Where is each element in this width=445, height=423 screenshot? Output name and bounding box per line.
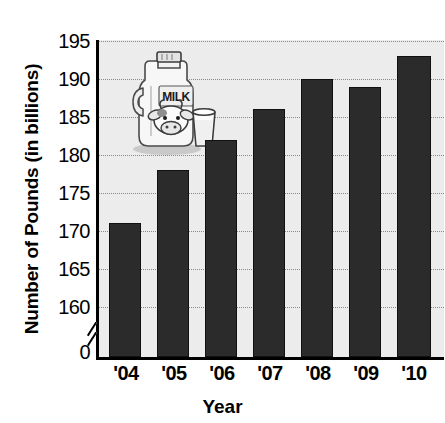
x-axis-line: [96, 357, 444, 360]
plot-inner: MILK: [99, 40, 444, 357]
bar-2004: [109, 223, 141, 357]
bar-2008: [301, 79, 333, 357]
bar-2006: [205, 140, 237, 357]
bar-2009: [349, 87, 381, 357]
svg-text:MILK: MILK: [162, 90, 190, 104]
y-tick-165: 165: [32, 259, 90, 279]
y-tick-175: 175: [32, 183, 90, 203]
bar-2005: [157, 170, 189, 357]
bar-chart: Number of Pounds (in billions) 195 190 1…: [0, 0, 445, 423]
bar-2007: [253, 109, 285, 357]
y-tick-170: 170: [32, 221, 90, 241]
y-tick-195: 195: [32, 31, 90, 51]
y-tick-180: 180: [32, 145, 90, 165]
gridline-195: [99, 41, 444, 42]
bar-2010: [397, 56, 431, 357]
gridline-190: [99, 79, 444, 80]
axis-break-icon: [84, 318, 110, 348]
y-axis-tick-labels: 195 190 185 180 175 170 165 160 0: [32, 0, 90, 423]
y-tick-160: 160: [32, 297, 90, 317]
y-tick-0: 0: [32, 342, 90, 362]
x-axis-title: Year: [0, 396, 445, 418]
plot-area: MILK: [96, 40, 444, 357]
x-tick-2010: '10: [384, 362, 444, 385]
y-tick-190: 190: [32, 69, 90, 89]
y-tick-185: 185: [32, 107, 90, 127]
